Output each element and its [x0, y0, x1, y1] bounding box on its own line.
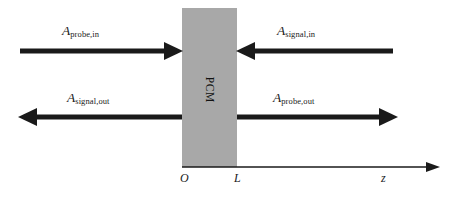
signal-out-label: Asignal,out: [67, 91, 110, 106]
signal-out-symbol: A: [67, 90, 75, 105]
signal-in-subscript: signal,in: [285, 29, 315, 39]
signal-out-subscript: signal,out: [75, 96, 109, 106]
probe-out-subscript: probe,out: [281, 96, 314, 106]
origin-label: O: [180, 172, 189, 184]
signal-in-symbol: A: [277, 23, 285, 38]
probe-in-subscript: probe,in: [70, 29, 99, 39]
z-axis-arrowhead: [426, 162, 440, 172]
phase-conjugate-mirror-diagram: PCM Aprobe,in Asignal,in Asignal,out Apr…: [0, 0, 462, 201]
pcm-block-label: PCM: [204, 67, 216, 112]
signal-out-arrowhead: [18, 108, 37, 126]
probe-in-symbol: A: [62, 23, 70, 38]
probe-out-label: Aprobe,out: [273, 91, 315, 106]
probe-in-arrowhead: [164, 42, 183, 60]
length-label: L: [234, 172, 241, 184]
probe-in-label: Aprobe,in: [62, 24, 99, 39]
signal-in-arrowhead: [236, 42, 255, 60]
z-axis-label: z: [381, 172, 386, 184]
probe-out-arrowhead: [379, 108, 398, 126]
probe-out-symbol: A: [273, 90, 281, 105]
signal-in-label: Asignal,in: [277, 24, 315, 39]
